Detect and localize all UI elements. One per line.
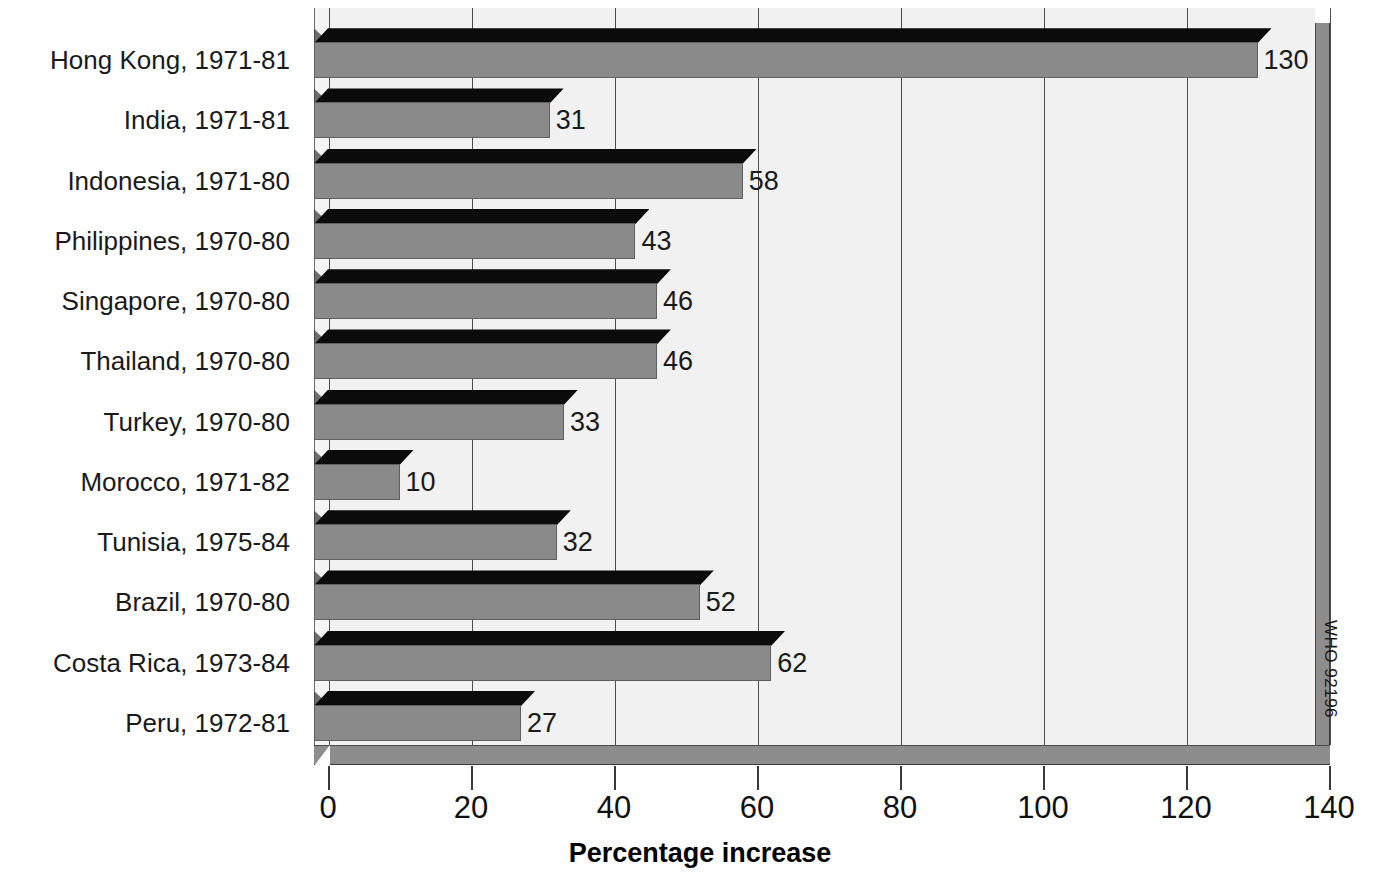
x-tick-label-100: 100 (1017, 792, 1069, 823)
x-tick-100 (1043, 766, 1045, 790)
bar-value-label: 10 (406, 469, 436, 496)
bar-top-face (314, 631, 785, 646)
bar-value-label: 43 (641, 228, 671, 255)
bar-top-face (314, 510, 571, 525)
x-tick-20 (471, 766, 473, 790)
x-tick-80 (900, 766, 902, 790)
category-label: Philippines, 1970-80 (54, 228, 290, 254)
bar-value-label: 46 (663, 348, 693, 375)
bar-top-face (314, 329, 671, 344)
bar-front-face (314, 524, 557, 560)
x-tick-60 (757, 766, 759, 790)
bar-value-label: 31 (556, 107, 586, 134)
bar-top-face (314, 269, 671, 284)
bar-value-label: 62 (777, 650, 807, 677)
bar-value-label: 32 (563, 529, 593, 556)
bar-value-label: 46 (663, 288, 693, 315)
gridline-100 (1044, 8, 1045, 745)
x-axis-title: Percentage increase (0, 838, 1382, 869)
category-label: Morocco, 1971-82 (80, 469, 290, 495)
bar-top-face (314, 28, 1272, 43)
category-label: Singapore, 1970-80 (62, 288, 290, 314)
bar-front-face (314, 584, 700, 620)
bar-top-face (314, 88, 564, 103)
x-tick-label-60: 60 (740, 792, 774, 823)
bar-front-face (314, 283, 657, 319)
bar-value-label: 33 (570, 409, 600, 436)
x-tick-label-140: 140 (1303, 792, 1355, 823)
bar-value-label: 58 (749, 168, 779, 195)
bar-value-label: 52 (706, 589, 736, 616)
bar-value-label: 27 (527, 710, 557, 737)
category-label: Peru, 1972-81 (125, 710, 290, 736)
x-tick-120 (1186, 766, 1188, 790)
who-credit-label: WHO 92196 (1320, 620, 1340, 718)
category-label: India, 1971-81 (124, 107, 290, 133)
bar-top-face (314, 209, 649, 224)
gridline-80 (901, 8, 902, 745)
x-tick-140 (1329, 766, 1331, 790)
x-tick-label-120: 120 (1160, 792, 1212, 823)
bar-top-face (314, 691, 535, 706)
plot-floor (314, 745, 1330, 765)
category-label: Thailand, 1970-80 (80, 348, 290, 374)
bar-front-face (314, 404, 564, 440)
bar-front-face (314, 42, 1258, 78)
bar-front-face (314, 464, 400, 500)
x-tick-0 (328, 766, 330, 790)
x-tick-label-80: 80 (883, 792, 917, 823)
bar-front-face (314, 343, 657, 379)
x-tick-label-0: 0 (319, 792, 336, 823)
bar-top-face (314, 149, 757, 164)
category-label: Tunisia, 1975-84 (97, 529, 290, 555)
bar-front-face (314, 645, 771, 681)
bar-top-face (314, 390, 578, 405)
category-label: Brazil, 1970-80 (115, 589, 290, 615)
category-label: Turkey, 1970-80 (104, 409, 290, 435)
plot-right-wall-bevel (1315, 8, 1331, 23)
bar-front-face (314, 163, 743, 199)
bar-top-face (314, 570, 714, 585)
x-tick-40 (614, 766, 616, 790)
bar-front-face (314, 223, 635, 259)
bar-value-label: 130 (1264, 47, 1309, 74)
x-axis-title-text: Percentage increase (569, 838, 832, 869)
gridline-120 (1187, 8, 1188, 745)
chart-figure: 1303158434646331032526227 Hong Kong, 197… (0, 0, 1382, 874)
bar-top-face (314, 450, 414, 465)
x-tick-label-20: 20 (454, 792, 488, 823)
x-tick-label-40: 40 (597, 792, 631, 823)
bar-front-face (314, 102, 550, 138)
bar-front-face (314, 705, 521, 741)
category-label: Indonesia, 1971-80 (67, 168, 290, 194)
category-label: Hong Kong, 1971-81 (50, 47, 290, 73)
category-label: Costa Rica, 1973-84 (53, 650, 290, 676)
